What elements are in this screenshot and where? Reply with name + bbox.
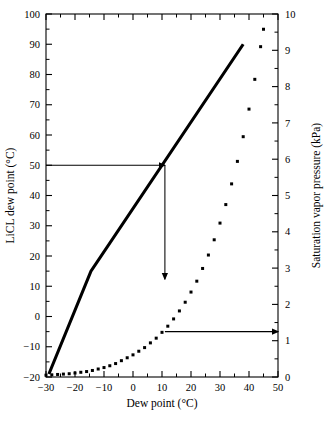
y-tick-label: 90 — [30, 39, 41, 50]
data-point — [91, 369, 94, 372]
data-point — [190, 291, 193, 294]
y2-tick-label: 10 — [285, 9, 296, 20]
y-tick-label: 100 — [24, 9, 40, 20]
data-point — [224, 203, 227, 206]
data-point — [45, 374, 48, 377]
y2-tick-label: 4 — [285, 226, 291, 237]
data-point — [126, 356, 129, 359]
data-point — [172, 317, 175, 320]
y-tick-label: 10 — [30, 281, 41, 292]
x-tick-label: 30 — [215, 382, 226, 393]
data-point — [166, 325, 169, 328]
data-point — [236, 160, 239, 163]
data-point — [248, 108, 251, 111]
y2-tick-label: 6 — [285, 154, 290, 165]
chart-container: −20−100102030405060708090100012345678910… — [0, 0, 331, 431]
y-tick-label: 30 — [30, 220, 41, 231]
data-point — [103, 366, 106, 369]
licl-dew-point-line — [49, 44, 243, 374]
data-point — [262, 28, 265, 31]
data-point — [62, 373, 65, 376]
y-tick-label: 60 — [30, 130, 41, 141]
y-tick-label: −10 — [24, 341, 40, 352]
dew-point-chart: −20−100102030405060708090100012345678910… — [0, 0, 331, 431]
data-point — [108, 364, 111, 367]
y-tick-label: −20 — [24, 372, 40, 383]
saturation-vapor-pressure-points — [45, 28, 266, 377]
data-point — [114, 362, 117, 365]
data-point — [201, 267, 204, 270]
x-tick-label: 40 — [244, 382, 255, 393]
x-tick-label: −10 — [96, 382, 112, 393]
data-point — [97, 368, 100, 371]
x-tick-label: −30 — [38, 382, 54, 393]
data-point — [68, 372, 71, 375]
y-tick-label: 50 — [30, 160, 41, 171]
y2-tick-label: 5 — [285, 190, 290, 201]
y2-tick-label: 0 — [285, 372, 290, 383]
y-tick-label: 70 — [30, 99, 41, 110]
y2-tick-label: 1 — [285, 335, 290, 346]
x-axis-title: Dew point (°C) — [126, 397, 197, 410]
y-tick-label: 80 — [30, 69, 41, 80]
data-point — [85, 370, 88, 373]
data-point — [155, 337, 158, 340]
y2-tick-label: 7 — [285, 118, 290, 129]
data-point — [50, 373, 53, 376]
x-tick-label: 20 — [186, 382, 197, 393]
x-tick-label: 50 — [273, 382, 284, 393]
data-point — [137, 350, 140, 353]
x-tick-label: 10 — [157, 382, 168, 393]
data-point — [184, 301, 187, 304]
y2-tick-label: 8 — [285, 81, 290, 92]
data-point — [79, 371, 82, 374]
y2-axis-title: Saturation vapor pressure (kPa) — [310, 123, 323, 268]
data-point — [253, 78, 256, 81]
data-point — [207, 254, 210, 257]
data-point — [195, 280, 198, 283]
y-tick-label: 20 — [30, 251, 41, 262]
data-point — [213, 238, 216, 241]
y2-tick-label: 2 — [285, 299, 290, 310]
x-tick-label: −20 — [67, 382, 83, 393]
data-point — [219, 222, 222, 225]
x-tick-label: 0 — [130, 382, 135, 393]
y-tick-label: 0 — [35, 311, 40, 322]
data-point — [120, 359, 123, 362]
data-point — [259, 45, 262, 48]
y-axis-title: LiCL dew point (°C) — [4, 147, 17, 243]
data-point — [242, 135, 245, 138]
data-point — [74, 372, 77, 375]
data-point — [178, 309, 181, 312]
y2-tick-label: 3 — [285, 263, 290, 274]
data-point — [132, 353, 135, 356]
data-point — [56, 373, 59, 376]
plot-frame — [46, 14, 278, 377]
data-point — [149, 341, 152, 344]
data-point — [230, 182, 233, 185]
y2-tick-label: 9 — [285, 45, 290, 56]
data-point — [143, 346, 146, 349]
y-tick-label: 40 — [30, 190, 41, 201]
data-point — [161, 331, 164, 334]
